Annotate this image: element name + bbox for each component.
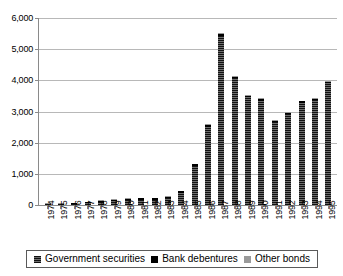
bar-group [54,18,67,205]
bar-stack [325,81,331,205]
bar-stack [272,120,278,205]
bar-segment [205,127,211,205]
x-axis-label-slot: 1974 [40,209,53,243]
bar-stack [205,124,211,205]
bar-group [228,18,241,205]
bar-segment [285,114,291,205]
y-axis-tick-label: 2,000 [11,138,33,147]
bar-stack [218,33,224,205]
bar-chart: 01,0002,0003,0004,0005,0006,000 19741975… [0,0,343,276]
bar-group [295,18,308,205]
y-axis-tick-labels: 01,0002,0003,0004,0005,0006,000 [0,0,36,212]
x-axis-tick-labels: 1974197519761977197819791980198119821983… [38,209,337,243]
bar-segment [299,103,305,205]
x-axis-label-slot: 1983 [161,209,174,243]
x-axis-label-slot: 1987 [214,209,227,243]
y-axis-tick-label: 1,000 [11,169,33,178]
bar-group [268,18,281,205]
bar-group [241,18,254,205]
x-axis-label-slot: 1979 [107,209,120,243]
plot-wrapper: 01,0002,0003,0004,0005,0006,000 19741975… [0,0,343,212]
bar-group [281,18,294,205]
x-axis-label-slot: 1975 [53,209,66,243]
bar-group [121,18,134,205]
bar-segment [312,100,318,205]
x-axis-label-slot: 1993 [295,209,308,243]
y-axis-tick-label: 5,000 [11,45,33,54]
plot-area [38,18,337,205]
x-axis-label-slot: 1977 [80,209,93,243]
bar-group [108,18,121,205]
x-axis-label-slot: 1982 [147,209,160,243]
bar-segment [232,78,238,205]
bar-stack [299,101,305,205]
x-axis-label-slot: 1985 [187,209,200,243]
bar-group [255,18,268,205]
bar-segment [192,166,198,205]
bar-segment [325,83,331,205]
x-axis-label-slot: 1981 [134,209,147,243]
legend-label: Bank debentures [162,254,238,264]
bar-segment [272,122,278,205]
legend-label: Government securities [45,254,145,264]
x-axis-label-slot: 1984 [174,209,187,243]
swatch-bank-debentures-icon [151,256,158,263]
x-axis-label-slot: 1986 [201,209,214,243]
y-axis-tick-label: 6,000 [11,14,33,23]
bar-series-group [39,18,337,205]
legend-label: Other bonds [255,254,310,264]
legend-item[interactable]: Other bonds [244,254,310,264]
bar-stack [232,76,238,205]
y-axis-tick-label: 0 [28,201,33,210]
bar-group [188,18,201,205]
bar-segment [245,97,251,205]
bar-group [94,18,107,205]
swatch-government-securities-icon [34,256,41,263]
bar-group [148,18,161,205]
bar-group [161,18,174,205]
x-axis-label-slot: 1988 [228,209,241,243]
bar-segment [218,36,224,205]
bar-stack [245,95,251,205]
bar-group [308,18,321,205]
bar-group [215,18,228,205]
bar-group [41,18,54,205]
bar-group [135,18,148,205]
x-axis-label-slot: 1978 [94,209,107,243]
bar-group [322,18,335,205]
bar-segment [258,101,264,205]
y-axis-tick-label: 4,000 [11,76,33,85]
bar-group [68,18,81,205]
legend-item[interactable]: Government securities [34,254,145,264]
x-axis-label-slot: 1990 [255,209,268,243]
legend-item[interactable]: Bank debentures [151,254,238,264]
x-axis-label-slot: 1980 [120,209,133,243]
bar-group [81,18,94,205]
swatch-other-bonds-icon [244,256,251,263]
x-axis-label-slot: 1989 [241,209,254,243]
x-axis-label-slot: 1976 [67,209,80,243]
x-axis-label-slot: 1992 [281,209,294,243]
bar-stack [312,98,318,205]
bar-stack [192,164,198,205]
x-axis-label-slot: 1994 [308,209,321,243]
x-axis-label-slot: 1991 [268,209,281,243]
bar-group [201,18,214,205]
x-axis-tick-label: 1995 [328,200,337,219]
chart-legend: Government securitiesBank debenturesOthe… [26,250,318,268]
bar-stack [285,112,291,205]
bar-group [175,18,188,205]
bar-stack [258,98,264,205]
x-axis-label-slot: 1995 [322,209,335,243]
y-axis-tick-label: 3,000 [11,107,33,116]
